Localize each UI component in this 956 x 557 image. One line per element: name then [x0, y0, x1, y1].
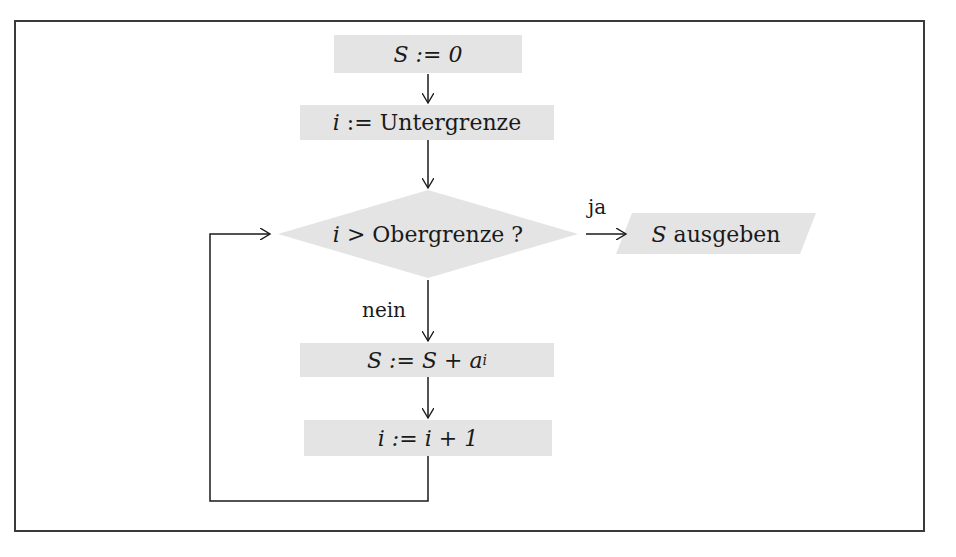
node-decision-op: > — [347, 222, 365, 247]
node-accumulate-text: S := S + a — [367, 348, 483, 373]
node-output: S ausgeben — [624, 216, 808, 252]
node-decision-var: i — [333, 222, 340, 247]
node-output-text: ausgeben — [674, 222, 781, 247]
node-init-s-text: S := 0 — [394, 42, 463, 67]
node-increment: i := i + 1 — [304, 420, 552, 456]
edge-label-no: nein — [362, 298, 406, 322]
flowchart-edges — [0, 0, 956, 557]
node-accumulate: S := S + ai — [300, 343, 554, 377]
node-increment-text: i := i + 1 — [378, 426, 478, 451]
node-accumulate-subscript: i — [483, 352, 487, 368]
node-init-i-var: i — [333, 110, 340, 135]
node-init-s: S := 0 — [334, 35, 522, 73]
node-decision-text: Obergrenze ? — [372, 222, 523, 247]
node-decision: i > Obergrenze ? — [300, 216, 556, 252]
node-init-i-text: Untergrenze — [380, 110, 522, 135]
node-init-i: i := Untergrenze — [300, 105, 554, 140]
node-output-var: S — [651, 222, 666, 247]
node-init-i-op: := — [347, 110, 373, 135]
edge-label-yes: ja — [588, 195, 606, 219]
